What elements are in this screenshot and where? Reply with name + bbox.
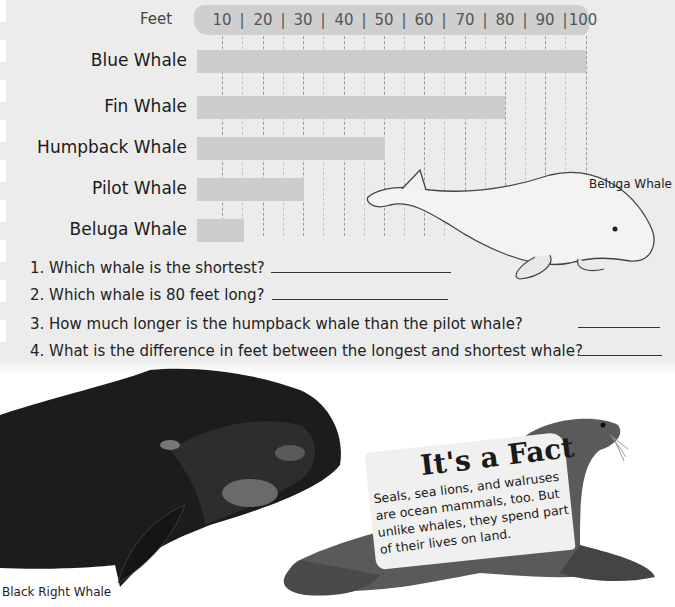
tick-40: 40: [334, 11, 353, 29]
tick-60: 60: [414, 11, 433, 29]
question-1: 1. Which whale is the shortest?: [30, 259, 265, 277]
tick-separator: |: [482, 11, 487, 29]
answer-blank-1[interactable]: [271, 272, 451, 273]
question-3: 3. How much longer is the humpback whale…: [30, 315, 523, 333]
tick-separator: |: [361, 11, 366, 29]
tick-separator: |: [401, 11, 406, 29]
beluga-whale-caption: Beluga Whale: [589, 177, 672, 191]
black-right-whale-caption: Black Right Whale: [2, 585, 111, 599]
tick-separator: |: [562, 11, 567, 29]
tick-separator: |: [522, 11, 527, 29]
answer-blank-2[interactable]: [272, 299, 448, 300]
bar-pilot-whale: [197, 178, 304, 201]
tick-80: 80: [495, 11, 514, 29]
answer-blank-4[interactable]: [580, 355, 662, 356]
row-label-blue-whale: Blue Whale: [91, 50, 187, 70]
row-label-humpback-whale: Humpback Whale: [37, 137, 187, 157]
tick-separator: |: [280, 11, 285, 29]
tick-90: 90: [535, 11, 554, 29]
question-4: 4. What is the difference in feet betwee…: [30, 342, 583, 360]
tick-separator: |: [441, 11, 446, 29]
tick-100: 100: [569, 11, 598, 29]
tick-30: 30: [293, 11, 312, 29]
answer-blank-3[interactable]: [578, 327, 660, 328]
tick-70: 70: [455, 11, 474, 29]
tick-separator: |: [239, 11, 244, 29]
bar-blue-whale: [197, 50, 586, 73]
bar-humpback-whale: [197, 137, 385, 160]
tick-separator: |: [320, 11, 325, 29]
axis-label-feet: Feet: [140, 10, 172, 28]
question-2: 2. Which whale is 80 feet long?: [30, 286, 265, 304]
row-label-pilot-whale: Pilot Whale: [92, 178, 187, 198]
tick-10: 10: [212, 11, 231, 29]
row-label-beluga-whale: Beluga Whale: [70, 219, 187, 239]
bar-fin-whale: [197, 96, 505, 119]
bar-beluga-whale: [197, 219, 244, 242]
row-label-fin-whale: Fin Whale: [104, 96, 187, 116]
tick-50: 50: [374, 11, 393, 29]
paper-torn-edge: [0, 0, 6, 360]
tick-20: 20: [253, 11, 272, 29]
